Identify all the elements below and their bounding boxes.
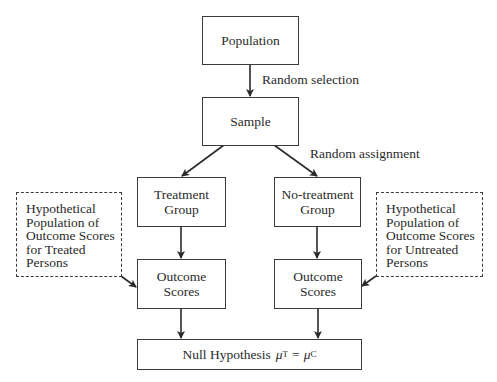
node-outcome-untreated-line1: Outcome [293, 269, 343, 284]
node-no-treatment-group: No-treatment Group [274, 177, 361, 227]
hypothetical-treated-line: Outcome Scores [26, 229, 121, 243]
node-outcome-untreated: Outcome Scores [274, 259, 362, 309]
arrow-hypothetical-untreated-to-outcome [362, 276, 376, 286]
null-hypothesis-text: Null Hypothesis [183, 347, 271, 362]
node-treatment-group-line2: Group [164, 202, 199, 217]
node-null-hypothesis: Null Hypothesis μ T = μ C [137, 339, 362, 370]
hypothetical-untreated-line: Outcome Scores [386, 229, 482, 243]
equals-sign: = [292, 347, 300, 362]
node-outcome-treated: Outcome Scores [137, 259, 226, 309]
hypothetical-untreated-line: for Untreated [386, 243, 482, 257]
node-no-treatment-group-line1: No-treatment [282, 187, 354, 202]
hypothetical-untreated-line: Population of [386, 216, 482, 230]
node-population-label: Population [221, 33, 280, 48]
node-outcome-untreated-line2: Scores [300, 284, 336, 299]
node-hypothetical-treated: Hypothetical Population of Outcome Score… [16, 192, 122, 277]
node-sample-label: Sample [230, 114, 271, 129]
hypothetical-treated-line: for Treated [26, 243, 121, 257]
node-treatment-group: Treatment Group [137, 177, 226, 227]
node-sample: Sample [202, 97, 299, 146]
edge-label-random-assignment: Random assignment [310, 146, 420, 162]
subscript-c: C [310, 347, 316, 362]
arrow-sample-to-treatment [182, 145, 224, 176]
hypothetical-untreated-line: Hypothetical [386, 202, 482, 216]
hypothetical-untreated-line: Persons [386, 256, 482, 270]
node-outcome-treated-line2: Scores [164, 284, 200, 299]
subscript-t: T [283, 347, 289, 362]
node-outcome-treated-line1: Outcome [157, 269, 207, 284]
arrow-hypothetical-treated-to-outcome [121, 276, 136, 287]
node-hypothetical-untreated: Hypothetical Population of Outcome Score… [376, 192, 483, 277]
node-treatment-group-line1: Treatment [154, 187, 209, 202]
hypothetical-treated-line: Population of [26, 216, 121, 230]
node-population: Population [202, 16, 299, 65]
mu-treatment-symbol: μ [276, 347, 283, 362]
hypothetical-treated-line: Persons [26, 256, 121, 270]
node-no-treatment-group-line2: Group [300, 202, 335, 217]
hypothetical-treated-line: Hypothetical [26, 202, 121, 216]
mu-control-symbol: μ [304, 347, 311, 362]
edge-label-random-selection: Random selection [262, 72, 359, 88]
